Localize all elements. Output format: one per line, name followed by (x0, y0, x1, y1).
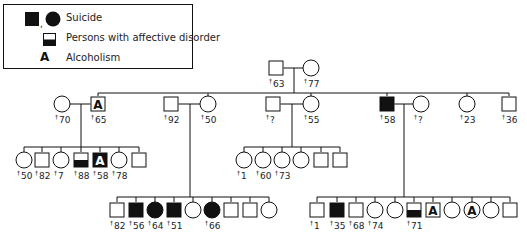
gen2-male-suicide (380, 97, 394, 111)
death-age-label: †73 (275, 169, 290, 181)
gen3-d-female-unaffected (387, 202, 403, 218)
gen3-a-female-unaffected (53, 152, 69, 168)
gen3-c-female-unaffected (255, 152, 271, 168)
death-age-label: †74 (368, 219, 383, 231)
death-age-label: †? (414, 113, 423, 125)
gen2-female-unaffected (459, 96, 475, 112)
death-age-label: †7 (54, 169, 64, 181)
svg-text:A: A (467, 204, 477, 218)
gen1-female-unaffected (303, 60, 319, 76)
gen3-b-male-suicide (129, 203, 143, 217)
death-age-label: †55 (304, 113, 319, 125)
svg-text:A: A (428, 204, 438, 218)
gen3-b-female-unaffected (261, 202, 277, 218)
gen3-b-male-suicide (167, 203, 181, 217)
death-age-label: †50 (201, 113, 216, 125)
death-age-label: †36 (502, 113, 517, 125)
svg-text:A: A (95, 154, 105, 168)
gen2-male-unaffected (266, 97, 280, 111)
gen2-male-unaffected (502, 97, 516, 111)
gen3-c-female-unaffected (274, 152, 290, 168)
gen3-d-male-affective (407, 203, 421, 217)
legend-label-suicide: Suicide (66, 12, 102, 23)
gen3-c-female-unaffected (236, 152, 252, 168)
gen3-c-male-unaffected (314, 153, 328, 167)
gen3-d-male-unaffected (310, 203, 324, 217)
gen3-c-male-unaffected (333, 153, 347, 167)
gen3-d-male-unaffected (503, 203, 517, 217)
gen3-d-female-unaffected (483, 202, 499, 218)
gen3-b-female-suicide (147, 202, 163, 218)
gen3-b-female-suicide (204, 202, 220, 218)
death-age-label: †92 (164, 113, 179, 125)
death-age-label: †88 (74, 169, 89, 181)
gen3-a-female-unaffected (16, 152, 32, 168)
gen2-female-unaffected (413, 96, 429, 112)
gen3-b-male-unaffected (224, 203, 238, 217)
gen3-a-male-unaffected (132, 153, 146, 167)
death-age-label: †60 (256, 169, 271, 181)
gen3-a-male-suicide-alcoholism: A (93, 153, 107, 168)
legend-label-alcoholism: Alcoholism (66, 52, 120, 63)
death-age-label: †78 (112, 169, 127, 181)
death-age-label: †66 (205, 219, 220, 231)
death-age-label: †82 (35, 169, 50, 181)
gen3-b-male-unaffected (110, 203, 124, 217)
death-age-label: †68 (349, 219, 364, 231)
legend-box: , Suicide Persons with affective disorde… (3, 4, 193, 69)
gen2-male-alcoholism: A (91, 97, 105, 112)
death-age-label: †56 (129, 219, 144, 231)
gen3-a-female-unaffected (111, 152, 127, 168)
alcoholism-letter-icon: A (40, 50, 49, 64)
gen3-d-female-alcoholism: A (464, 202, 480, 218)
gen3-b-female-unaffected (185, 202, 201, 218)
gen3-b-male-unaffected (243, 203, 257, 217)
gen3-a-male-affective (74, 153, 88, 167)
death-age-label: †65 (91, 113, 106, 125)
half-filled-square-icon (7, 30, 67, 48)
gen3-d-female-unaffected (444, 202, 460, 218)
death-age-label: †71 (407, 219, 422, 231)
death-age-label: †50 (17, 169, 32, 181)
death-age-label: †35 (330, 219, 345, 231)
gen2-male-unaffected (164, 97, 178, 111)
svg-text:,: , (40, 19, 43, 28)
death-age-label: †77 (304, 77, 319, 89)
death-age-label: †58 (380, 113, 395, 125)
death-age-label: †1 (237, 169, 247, 181)
gen3-c-female-unaffected (293, 152, 309, 168)
pedigree-nodes: AAAA (16, 60, 517, 218)
gen3-d-male-suicide (330, 203, 344, 217)
death-age-label: †1 (310, 219, 320, 231)
gen3-d-male-alcoholism: A (426, 203, 440, 218)
gen3-d-female-unaffected (367, 202, 383, 218)
gen2-female-unaffected (303, 96, 319, 112)
legend-label-affective: Persons with affective disorder (66, 32, 220, 43)
death-age-label: †63 (269, 77, 284, 89)
gen3-d-male-unaffected (349, 203, 363, 217)
gen1-male-unaffected (269, 61, 283, 75)
death-age-label: †51 (167, 219, 182, 231)
gen3-a-male-unaffected (35, 153, 49, 167)
death-age-label: †82 (110, 219, 125, 231)
gen2-female-unaffected (54, 96, 70, 112)
death-age-label: †70 (55, 113, 70, 125)
death-age-label: †64 (148, 219, 163, 231)
death-age-label: †58 (93, 169, 108, 181)
suicide-symbol-icon: , (7, 10, 67, 28)
gen2-female-unaffected (200, 96, 216, 112)
death-age-label: †? (266, 113, 275, 125)
pedigree-lines (24, 68, 510, 202)
svg-text:A: A (93, 98, 103, 112)
death-age-label: †23 (460, 113, 475, 125)
